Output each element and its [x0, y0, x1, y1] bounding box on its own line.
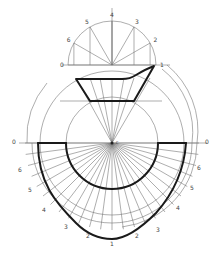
point-labels: 0654321c0654320654321	[12, 11, 209, 247]
left-ray-label: 2	[86, 232, 90, 239]
outer-arc-left	[27, 83, 47, 143]
top-radial-line	[90, 27, 112, 65]
development-radial-line	[112, 143, 187, 187]
outer-arc-right	[162, 69, 193, 143]
top-radial-line	[112, 43, 150, 65]
apex-label: c	[116, 139, 119, 145]
projector-to-apex	[90, 78, 112, 143]
development-radial-line	[51, 143, 113, 205]
top-point-label: 4	[110, 11, 114, 18]
construction-lines	[19, 8, 207, 230]
development-radial-line	[37, 143, 112, 187]
development-radial-line	[69, 143, 113, 218]
right-ray-label: 0	[205, 138, 209, 145]
right-ray-label: 3	[156, 226, 160, 233]
top-point-label: 2	[153, 36, 157, 43]
top-point-label: 1	[160, 61, 164, 68]
top-point-label: 6	[67, 36, 71, 43]
left-ray-label: 3	[64, 223, 68, 230]
left-ray-label: 5	[28, 186, 32, 193]
development-radial-line	[112, 143, 174, 205]
development-radial-line	[79, 143, 112, 223]
right-ray-label: 4	[176, 204, 180, 211]
right-ray-label: 2	[135, 232, 139, 239]
bottom-point-label: 1	[110, 240, 114, 247]
technical-drawing: 0654321c0654320654321	[0, 0, 221, 256]
right-ray-label: 5	[190, 184, 194, 191]
top-radial-line	[74, 43, 112, 65]
development-radial-line	[112, 143, 156, 218]
top-point-label: 5	[85, 18, 89, 25]
top-point-label: 3	[135, 18, 139, 25]
apex-point	[111, 142, 114, 145]
left-ray-label: 0	[12, 138, 16, 145]
left-ray-label: 6	[18, 166, 22, 173]
right-ray-label: 6	[197, 164, 201, 171]
projector-to-apex	[100, 78, 112, 143]
development-radial-line	[32, 143, 112, 176]
top-radial-line	[112, 27, 134, 65]
left-ray-label: 4	[42, 206, 46, 213]
top-point-label: 0	[60, 61, 64, 68]
development-radial-line	[112, 143, 145, 223]
